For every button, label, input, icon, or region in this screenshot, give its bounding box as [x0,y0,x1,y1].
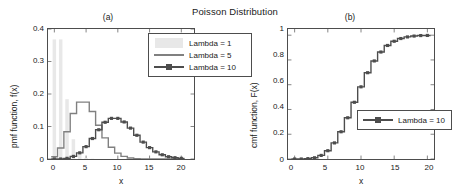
legend-key-line-lambda-5 [154,50,184,60]
panel-a-xtick-3: 15 [139,163,159,172]
panel-a-ytick-3: 0.3 [8,56,44,65]
panel-a-xlabel: x [101,176,141,186]
panel-b-series-canvas [288,29,434,159]
panel-b-ytick-5: 1 [248,24,284,33]
panel-b-xtick-4: 20 [419,163,439,172]
panel-a-xtick-1: 5 [75,163,95,172]
panel-a-xtick-0: 0 [43,163,63,172]
poisson-distribution-figure: Poisson Distribution (a) (b) 0.4 0.3 0.2… [0,0,470,193]
panel-b-xtick-3: 15 [385,163,405,172]
panel-a-ylabel: pmf function, f(x) [9,85,19,148]
panel-a-xtick-4: 20 [171,163,191,172]
panel-b-xtick-0: 0 [281,163,301,172]
legend-label-lambda-10: Lambda = 10 [189,63,236,72]
panel-b-xtick-1: 5 [315,163,335,172]
panel-b-ytick-0: 0 [248,155,284,164]
legend-key-patch-lambda-1 [154,38,184,48]
panel-b-ytick-4: 0.8 [248,50,284,59]
legend-item-lambda-10: Lambda = 10 [154,61,246,73]
panel-b-plot-area [287,28,435,160]
legend-key-line-marker-b-lambda-10 [363,115,393,125]
figure-title: Poisson Distribution [0,6,470,17]
legend-label-lambda-1: Lambda = 1 [189,39,231,48]
panel-a-ytick-4: 0.4 [8,24,44,33]
panel-b-tag: (b) [330,12,370,22]
legend-item-b-lambda-10: Lambda = 10 [363,114,446,126]
legend-item-lambda-1: Lambda = 1 [154,37,246,49]
legend-label-b-lambda-10: Lambda = 10 [398,116,445,125]
panel-a-legend: Lambda = 1 Lambda = 5 Lambda = 10 [148,33,252,77]
legend-key-line-marker-lambda-10 [154,62,184,72]
legend-item-lambda-5: Lambda = 5 [154,49,246,61]
panel-b-ylabel: cmf function, F(x) [249,82,259,148]
panel-b-xlabel: x [341,176,381,186]
panel-b-xtick-2: 10 [350,163,370,172]
panel-a-tag: (a) [88,12,128,22]
legend-label-lambda-5: Lambda = 5 [189,51,231,60]
panel-a-ytick-0: 0 [8,155,44,164]
panel-b-legend: Lambda = 10 [357,110,452,130]
panel-a-xtick-2: 10 [107,163,127,172]
